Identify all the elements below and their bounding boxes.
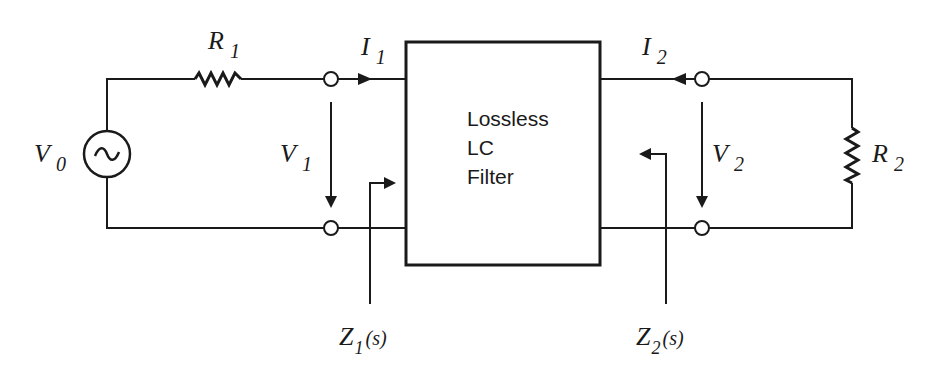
label-z2: Z2(s) [636,324,684,350]
arrowhead-z2-icon [639,148,651,160]
resistor-r1 [195,73,241,85]
filter-label-line-3: Filter [467,162,549,191]
label-z1: Z1(s) [339,324,387,350]
wire-right-top [709,79,852,128]
arrowhead-z1-icon [384,177,396,189]
terminal-port2-bottom [695,221,709,235]
label-v0: V0 [34,141,66,167]
wire-right-bottom [709,183,852,228]
filter-label: Lossless LC Filter [467,104,549,191]
wire-left-bottom [107,177,324,228]
impedance-pointer-z1 [370,183,384,304]
wire-left-top [107,79,195,131]
terminal-port1-top [324,72,338,86]
filter-label-line-2: LC [467,133,549,162]
arrowhead-v2-icon [696,196,708,208]
current-arrow-i2-icon [672,73,686,85]
label-r1: R1 [208,28,240,54]
label-r2: R2 [872,141,904,167]
arrowhead-v1-icon [325,196,337,208]
terminal-port2-top [695,72,709,86]
current-arrow-i1-icon [358,73,372,85]
label-i2: I2 [642,34,667,60]
resistor-r2 [846,128,858,183]
label-i1: I1 [361,34,386,60]
terminal-port1-bottom [324,221,338,235]
label-v1: V1 [280,141,312,167]
sine-glyph-icon [95,148,119,160]
filter-label-line-1: Lossless [467,104,549,133]
label-v2: V2 [712,141,744,167]
